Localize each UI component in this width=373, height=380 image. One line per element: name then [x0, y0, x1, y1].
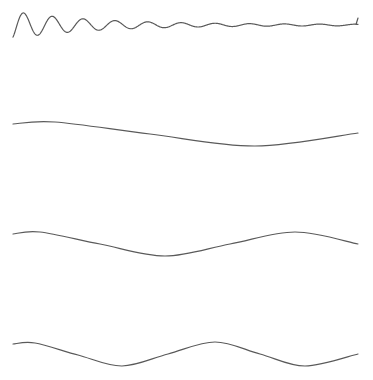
damped-oscillation-trace [13, 13, 358, 37]
slow-wave-trace [13, 122, 358, 146]
medium-wave-trace [13, 232, 358, 256]
fast-wave-trace [13, 342, 358, 366]
waveform-panels [0, 0, 373, 380]
